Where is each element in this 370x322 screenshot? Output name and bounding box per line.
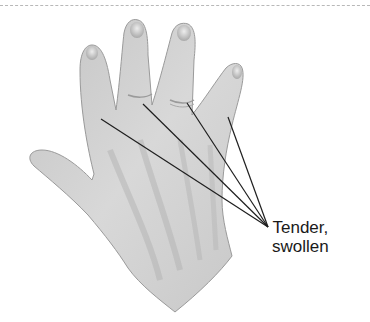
- annotation-label: Tender, swollen: [272, 218, 329, 256]
- pinky-nail: [232, 65, 242, 79]
- hand-shape: [30, 20, 243, 312]
- index-nail: [86, 46, 98, 60]
- hand-illustration: [0, 0, 370, 322]
- annotation-line-2: swollen: [272, 237, 329, 256]
- figure: Tender, swollen: [0, 0, 370, 322]
- pointer-line-pinky: [228, 117, 268, 227]
- ring-nail: [177, 25, 191, 41]
- annotation-line-1: Tender,: [272, 218, 329, 237]
- middle-nail: [130, 22, 144, 38]
